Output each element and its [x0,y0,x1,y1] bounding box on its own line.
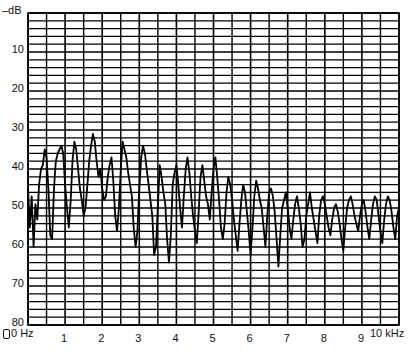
y-tick-label: 10 [0,43,24,55]
x-tick-label: 6 [247,332,253,344]
y-unit-label: –dB [2,4,22,16]
y-tick-label: 50 [0,199,24,211]
zero-marker-icon [3,329,10,339]
x-tick-label: 0 Hz [11,327,34,339]
y-tick-label: 60 [0,238,24,250]
x-tick-label: 10 kHz [370,327,404,339]
x-tick-label: 2 [98,332,104,344]
x-tick-label: 5 [210,332,216,344]
x-tick-label: 4 [172,332,178,344]
y-tick-label: 20 [0,82,24,94]
x-tick-label: 3 [135,332,141,344]
x-tick-label: 8 [321,332,327,344]
x-tick-label: 7 [284,332,290,344]
x-tick-label: 1 [61,332,67,344]
y-tick-label: 70 [0,277,24,289]
spectrum-chart [0,0,410,358]
x-tick-label: 9 [358,332,364,344]
y-tick-label: 30 [0,121,24,133]
y-tick-label: 40 [0,160,24,172]
